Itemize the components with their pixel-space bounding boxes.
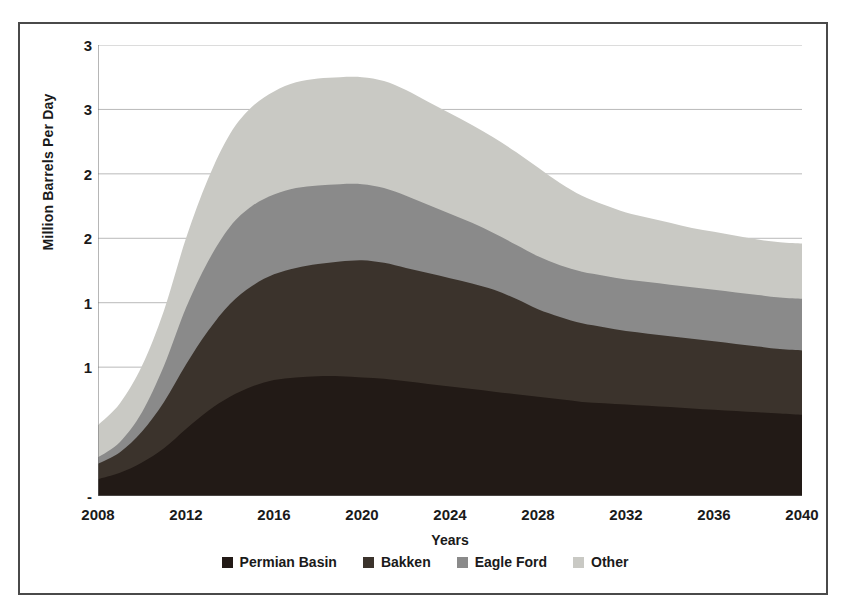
legend-label: Other <box>591 554 628 570</box>
legend-swatch-icon <box>457 557 468 568</box>
chart-legend: Permian BasinBakkenEagle FordOther <box>20 554 830 570</box>
chart-frame: Million Barrels Per Day 332211- 20082012… <box>18 22 828 595</box>
x-tick-label: 2028 <box>503 506 573 523</box>
y-tick-label: 1 <box>58 294 92 311</box>
y-axis-title: Million Barrels Per Day <box>40 52 56 292</box>
legend-swatch-icon <box>222 557 233 568</box>
x-tick-label: 2036 <box>679 506 749 523</box>
x-axis-title: Years <box>98 532 802 548</box>
y-tick-label: 2 <box>58 230 92 247</box>
legend-swatch-icon <box>573 557 584 568</box>
y-tick-label: 1 <box>58 359 92 376</box>
x-axis-tick-labels: 200820122016202020242028203220362040 <box>98 506 802 530</box>
x-tick-label: 2040 <box>767 506 837 523</box>
legend-label: Permian Basin <box>240 554 337 570</box>
y-tick-label: - <box>58 488 92 505</box>
stacked-area-plot <box>98 45 802 496</box>
x-tick-label: 2008 <box>63 506 133 523</box>
legend-item[interactable]: Eagle Ford <box>457 554 547 570</box>
y-tick-label: 3 <box>58 37 92 54</box>
legend-item[interactable]: Bakken <box>363 554 431 570</box>
legend-item[interactable]: Permian Basin <box>222 554 337 570</box>
x-tick-label: 2012 <box>151 506 221 523</box>
y-tick-label: 3 <box>58 101 92 118</box>
x-tick-label: 2032 <box>591 506 661 523</box>
x-tick-label: 2016 <box>239 506 309 523</box>
y-axis-tick-labels: 332211- <box>58 45 92 496</box>
legend-swatch-icon <box>363 557 374 568</box>
legend-item[interactable]: Other <box>573 554 628 570</box>
legend-label: Bakken <box>381 554 431 570</box>
x-tick-label: 2024 <box>415 506 485 523</box>
plot-area <box>98 45 802 496</box>
y-tick-label: 2 <box>58 165 92 182</box>
x-tick-label: 2020 <box>327 506 397 523</box>
legend-label: Eagle Ford <box>475 554 547 570</box>
